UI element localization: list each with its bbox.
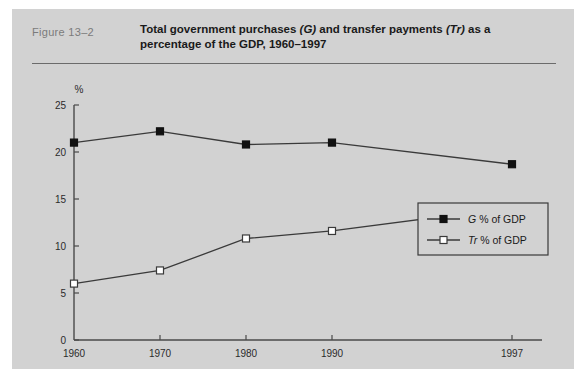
- header-divider: [32, 63, 556, 64]
- y-axis-tick-label: 0: [60, 335, 66, 346]
- y-axis-tick-label: 5: [60, 288, 66, 299]
- title-text-c: as a: [465, 23, 491, 35]
- x-axis-tick-label: 1990: [321, 348, 344, 359]
- legend-marker: [440, 216, 447, 223]
- data-point-marker: [157, 267, 164, 274]
- title-text-b: and transfer payments: [316, 23, 446, 35]
- x-axis-tick-label: 1960: [63, 348, 86, 359]
- title-symbol-g: (G): [300, 23, 317, 35]
- figure-title: Total government purchases (G) and trans…: [140, 22, 540, 52]
- figure-title-line2: percentage of the GDP, 1960–1997: [140, 37, 540, 52]
- data-point-marker: [329, 227, 336, 234]
- data-point-marker: [509, 161, 516, 168]
- x-axis-tick-label: 1970: [149, 348, 172, 359]
- data-point-marker: [157, 128, 164, 135]
- figure-number-label: Figure 13–2: [32, 26, 94, 38]
- plot-area: 0510152025%19601970198019901997 G% of GD…: [12, 67, 574, 369]
- y-axis-tick-label: 20: [55, 147, 67, 158]
- y-axis-tick-label: 10: [55, 241, 67, 252]
- data-point-marker: [243, 141, 250, 148]
- x-axis-tick-label: 1980: [235, 348, 258, 359]
- data-point-marker: [329, 139, 336, 146]
- y-axis-tick-label: 15: [55, 194, 67, 205]
- figure-panel: Figure 13–2 Total government purchases (…: [12, 9, 574, 369]
- title-symbol-tr: (Tr): [446, 23, 465, 35]
- y-axis-unit-label: %: [75, 84, 84, 95]
- data-point-marker: [243, 235, 250, 242]
- figure-header: Figure 13–2 Total government purchases (…: [12, 9, 574, 67]
- chart-legend: G% of GDPTr% of GDP: [418, 203, 548, 255]
- x-axis-tick-label: 1997: [501, 348, 524, 359]
- series-line-g: [74, 131, 512, 164]
- data-point-marker: [71, 139, 78, 146]
- line-chart: 0510152025%19601970198019901997 G% of GD…: [12, 67, 574, 369]
- legend-marker: [440, 237, 447, 244]
- data-point-marker: [71, 280, 78, 287]
- figure-root: Figure 13–2 Total government purchases (…: [0, 0, 587, 380]
- legend-box: [418, 203, 548, 255]
- legend-label: Tr% of GDP: [468, 234, 527, 246]
- figure-title-line1: Total government purchases (G) and trans…: [140, 23, 490, 35]
- y-axis-tick-label: 25: [55, 100, 67, 111]
- title-text-a: Total government purchases: [140, 23, 300, 35]
